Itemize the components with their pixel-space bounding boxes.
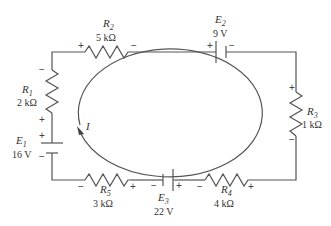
resistor-r5 <box>85 174 131 186</box>
e1-name: E1 <box>15 134 27 149</box>
e2-pol-right: − <box>229 40 235 51</box>
e3-pol-right: + <box>176 180 182 191</box>
resistor-r1 <box>46 70 58 113</box>
r2-value: 5 kΩ <box>96 32 116 43</box>
e2-value: 9 V <box>213 28 228 39</box>
r3-value: 1 kΩ <box>302 119 322 130</box>
r1-pol-top: − <box>39 64 45 75</box>
e1-pol-bottom: − <box>39 151 45 162</box>
r5-value: 3 kΩ <box>93 198 113 209</box>
battery-e3 <box>163 169 175 191</box>
e1-value: 16 V <box>12 149 32 160</box>
loop-current-arrow <box>77 49 262 177</box>
e3-value: 22 V <box>154 206 174 217</box>
wires <box>52 52 296 180</box>
r5-pol-left: − <box>78 181 84 192</box>
resistor-r2 <box>85 46 132 58</box>
r1-name: R1 <box>21 83 33 98</box>
resistor-r3 <box>290 92 302 136</box>
r3-pol-top: + <box>289 82 295 93</box>
e3-pol-left: − <box>151 180 157 191</box>
r5-pol-right: + <box>130 181 136 192</box>
r3-name: R3 <box>306 105 318 120</box>
e3-name: E3 <box>157 191 169 206</box>
r1-value: 2 kΩ <box>17 97 37 108</box>
e2-name: E2 <box>214 13 226 28</box>
e1-pol-top: + <box>39 130 45 141</box>
r4-pol-left: − <box>197 181 203 192</box>
r2-name: R2 <box>102 17 114 32</box>
e2-pol-left: + <box>207 40 213 51</box>
r4-value: 4 kΩ <box>214 198 234 209</box>
r2-pol-left: + <box>78 40 84 51</box>
circuit-diagram: I R2 5 kΩ + − E2 9 V + − R1 2 kΩ − + E1 … <box>0 0 331 226</box>
r1-pol-bottom: + <box>39 114 45 125</box>
current-label: I <box>85 120 91 132</box>
resistor-r4 <box>205 174 252 186</box>
r3-pol-bottom: − <box>289 134 295 145</box>
r4-pol-right: + <box>248 181 254 192</box>
r2-pol-right: − <box>131 40 137 51</box>
